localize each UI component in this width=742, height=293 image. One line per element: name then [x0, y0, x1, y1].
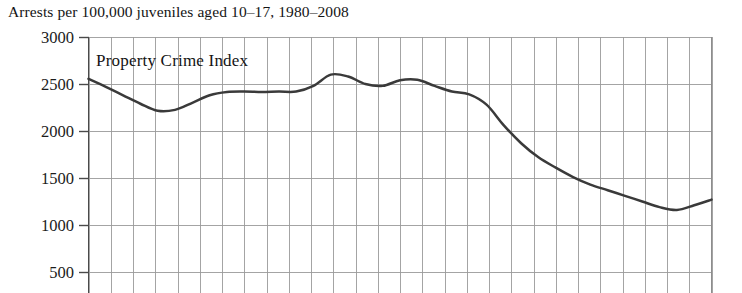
- svg-text:2000: 2000: [41, 122, 74, 141]
- vertical-gridlines: [90, 37, 713, 293]
- svg-text:2500: 2500: [41, 75, 74, 94]
- svg-text:1500: 1500: [41, 169, 74, 188]
- property-crime-index-figure: Arrests per 100,000 juveniles aged 10–17…: [0, 0, 742, 293]
- y-axis-tick-labels: 30002500200015001000500: [41, 28, 74, 282]
- svg-text:3000: 3000: [41, 28, 74, 47]
- svg-text:1000: 1000: [41, 216, 74, 235]
- y-axis-ticks: [79, 38, 89, 273]
- horizontal-gridlines: [89, 38, 712, 273]
- property-crime-index-line: [89, 74, 712, 210]
- svg-text:500: 500: [49, 263, 74, 282]
- plot-area: 30002500200015001000500: [0, 0, 742, 293]
- series-annotation-label: Property Crime Index: [96, 50, 248, 72]
- line-chart-svg: 30002500200015001000500: [0, 0, 742, 293]
